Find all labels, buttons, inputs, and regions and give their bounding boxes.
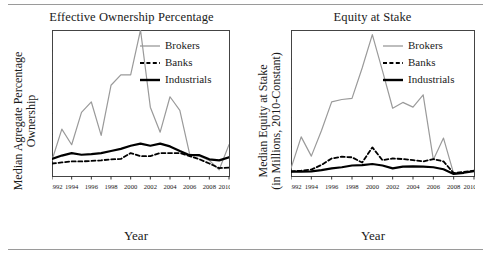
x-tick-label: 2002 — [386, 183, 399, 190]
chart-title-right: Equity at Stake — [245, 10, 490, 25]
y-axis-title-right-line1: Median Equity at Stake — [257, 28, 270, 214]
legend-label-industrials: Industrials — [165, 73, 211, 85]
x-tick-label: 2002 — [144, 183, 157, 190]
y-axis-title-right-line2: (in Millions, 2010-Constant) — [270, 28, 283, 214]
x-tick-label: 1998 — [104, 183, 118, 190]
legend-label-banks: Banks — [408, 56, 436, 68]
x-tick-label: 2008 — [447, 183, 461, 190]
series-line-banks — [291, 147, 474, 173]
x-tick-label: 2008 — [203, 183, 217, 190]
plot-frame — [292, 31, 475, 177]
x-tick-label: 2010 — [463, 183, 475, 190]
chart-panel-effective-ownership: Effective Ownership Percentage Median Ag… — [0, 6, 245, 248]
x-tick-label: 2004 — [163, 183, 177, 190]
series-line-brokers — [52, 30, 229, 170]
y-axis-title-left-line2: Ownership — [25, 28, 38, 214]
plot-svg-left: 0%1%2%3%4%5%6%7%199219941996199820002002… — [52, 30, 230, 202]
x-tick-label: 2000 — [366, 183, 380, 190]
chart-panel-equity-at-stake: Equity at Stake Median Equity at Stake (… — [245, 6, 490, 248]
series-group — [52, 30, 229, 170]
series-group — [291, 35, 474, 174]
legend-label-brokers: Brokers — [408, 39, 443, 51]
y-axis-title-left: Median Agregate Percentage Ownership — [12, 28, 38, 214]
x-tick-label: 2000 — [124, 183, 138, 190]
x-tick-label: 2006 — [427, 183, 441, 190]
x-tick-label: 1996 — [325, 183, 339, 190]
x-tick-label: 1992 — [291, 183, 302, 190]
plot-area-left: 0%1%2%3%4%5%6%7%199219941996199820002002… — [52, 30, 230, 202]
legend: BrokersBanksIndustrials — [140, 39, 211, 85]
legend-label-industrials: Industrials — [408, 73, 454, 85]
x-tick-label: 1992 — [52, 183, 63, 190]
x-axis-title-left: Year — [56, 228, 216, 244]
plot-svg-right: $0$5$10$15$20$25199219941996199820002002… — [291, 30, 475, 202]
plot-area-right: $0$5$10$15$20$25199219941996199820002002… — [291, 30, 475, 202]
x-tick-label: 1996 — [85, 183, 99, 190]
x-axis-title-right: Year — [293, 228, 453, 244]
chart-title-left: Effective Ownership Percentage — [0, 10, 245, 25]
y-axis-title-left-line1: Median Agregate Percentage — [12, 28, 25, 214]
bottom-divider-rule — [8, 249, 483, 250]
y-axis-title-right: Median Equity at Stake (in Millions, 201… — [257, 28, 283, 214]
top-divider-rule — [8, 4, 483, 5]
legend: BrokersBanksIndustrials — [383, 39, 454, 85]
x-tick-label: 2004 — [406, 183, 420, 190]
series-line-brokers — [291, 35, 474, 174]
x-tick-label: 2006 — [183, 183, 197, 190]
x-tick-label: 1998 — [345, 183, 359, 190]
x-tick-label: 1994 — [305, 183, 319, 190]
legend-label-brokers: Brokers — [165, 39, 200, 51]
x-tick-label: 2010 — [218, 183, 230, 190]
legend-label-banks: Banks — [165, 56, 193, 68]
x-tick-label: 1994 — [65, 183, 79, 190]
